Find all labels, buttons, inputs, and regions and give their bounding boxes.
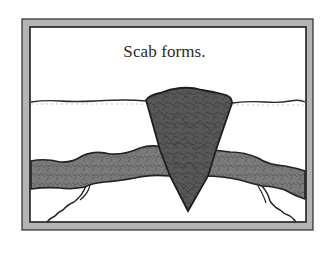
scab-diagram: Scab forms. <box>0 0 329 255</box>
illustration <box>0 0 329 255</box>
diagram-caption: Scab forms. <box>0 42 329 62</box>
